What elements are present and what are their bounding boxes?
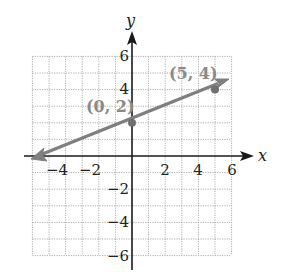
y-tick-label: −2 [107, 180, 129, 198]
point-5-4 [211, 86, 219, 94]
y-tick-label: −4 [107, 213, 129, 231]
y-tick-label: 4 [119, 80, 129, 98]
x-tick-label: −2 [79, 161, 101, 179]
point-label-0-2: (0, 2) [86, 97, 135, 116]
coordinate-plane: x y −4 −2 2 4 6 6 4 −2 −4 −6 (0, 2) (5, … [0, 0, 286, 277]
x-axis-label: x [258, 146, 267, 165]
point-0-2 [128, 119, 136, 127]
x-tick-label: 4 [193, 161, 203, 179]
x-tick-label: 2 [160, 161, 170, 179]
point-label-5-4: (5, 4) [169, 64, 218, 83]
y-tick-label: −6 [107, 247, 129, 265]
axes [24, 31, 254, 270]
y-tick-label: 6 [119, 47, 129, 65]
x-tick-label: −4 [46, 161, 68, 179]
y-axis-label: y [125, 11, 136, 30]
x-tick-label: 6 [227, 161, 237, 179]
